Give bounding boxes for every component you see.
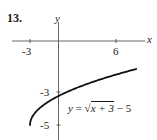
graph-plot — [0, 0, 157, 140]
problem-number: 13. — [7, 12, 22, 24]
equation-radicand: x + 3 — [91, 101, 114, 114]
x-tick-label-6: 6 — [113, 46, 119, 57]
y-tick-label-neg3: -3 — [40, 87, 49, 98]
x-axis-label: x — [147, 34, 152, 45]
y-axis-label: y — [55, 13, 60, 24]
y-tick-label-neg5: -5 — [40, 120, 49, 131]
equation-label: y = √x + 3 − 5 — [68, 103, 131, 114]
equation-lhs: y — [68, 102, 73, 114]
equation-equals: = — [76, 102, 82, 114]
radical-sign-icon: √ — [85, 102, 91, 114]
x-tick-label-neg3: -3 — [22, 46, 31, 57]
equation-tail: − 5 — [114, 102, 131, 114]
